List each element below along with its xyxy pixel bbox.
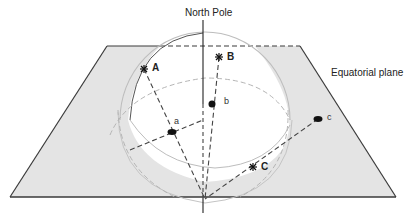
celestial-projection-diagram: North Pole Equatorial plane A B C a b c (0, 0, 406, 213)
star-marker-C (249, 163, 257, 171)
equatorial-plane-label: Equatorial plane (331, 68, 403, 78)
diagram-canvas (0, 0, 406, 213)
star-marker-A (140, 65, 148, 73)
star-label-A: A (152, 63, 159, 73)
star-label-B: B (227, 52, 234, 62)
projection-label-a: a (174, 117, 179, 126)
projection-point-c (314, 116, 323, 122)
north-pole-label: North Pole (185, 8, 232, 18)
projection-point-a (168, 129, 177, 135)
projection-point-b (209, 101, 216, 108)
star-label-C: C (261, 162, 268, 172)
projection-label-b: b (224, 97, 229, 106)
star-marker-B (215, 53, 223, 61)
projection-label-c: c (327, 113, 332, 122)
